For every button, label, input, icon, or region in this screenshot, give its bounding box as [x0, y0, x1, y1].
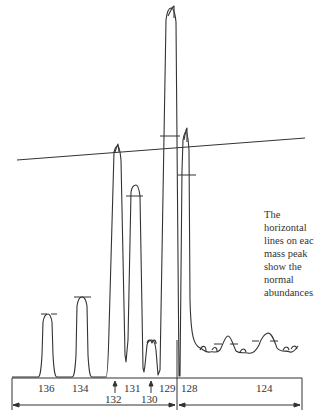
- tick-label-129: 129: [159, 382, 176, 394]
- tick-label-134: 134: [72, 382, 89, 394]
- tick-label-131: 131: [124, 382, 141, 394]
- tick-label-136: 136: [38, 382, 55, 394]
- tick-label-132: 132: [105, 393, 122, 405]
- tick-label-128: 128: [181, 382, 198, 394]
- tick-label-130: 130: [141, 393, 158, 405]
- tick-label-124: 124: [256, 382, 273, 394]
- spectrum-trace: [12, 6, 298, 377]
- annotation-text: The horizontal lines on each mass peak s…: [264, 208, 314, 299]
- sloping-reference-line: [17, 138, 305, 160]
